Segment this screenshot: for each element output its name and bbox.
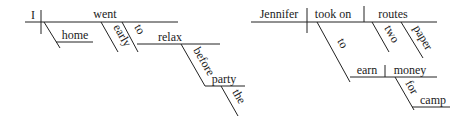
subject-word: I bbox=[31, 8, 35, 22]
object-word: routes bbox=[378, 7, 408, 21]
paper-word: paper bbox=[410, 23, 435, 53]
to-word: to bbox=[334, 36, 351, 51]
verb-word: took on bbox=[315, 7, 351, 21]
diagram-canvas: I went home early to relax before party bbox=[0, 0, 473, 118]
subject-word: Jennifer bbox=[260, 7, 299, 21]
two-word: two bbox=[381, 23, 402, 46]
for-word: for bbox=[402, 78, 421, 97]
to-diagonal bbox=[317, 22, 350, 82]
party-word: party bbox=[212, 72, 237, 86]
relax-word: relax bbox=[158, 30, 182, 44]
home-word: home bbox=[62, 28, 89, 42]
sentence-diagrams: I went home early to relax before party bbox=[0, 0, 473, 118]
diagram-2: Jennifer took on routes to two paper ear… bbox=[251, 6, 450, 110]
verb-word: went bbox=[93, 7, 117, 21]
earn-word: earn bbox=[357, 63, 378, 77]
camp-word: camp bbox=[420, 93, 446, 107]
money-word: money bbox=[394, 63, 427, 77]
to-word: to bbox=[131, 22, 148, 37]
the-word: the bbox=[229, 87, 248, 107]
diagram-1: I went home early to relax before party bbox=[25, 7, 249, 116]
home-diagonal bbox=[44, 22, 60, 48]
